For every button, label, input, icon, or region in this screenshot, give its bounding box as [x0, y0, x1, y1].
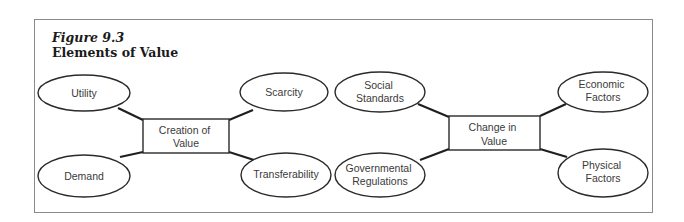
- connector-transferability: [229, 152, 254, 160]
- transferability-label: Transferability: [253, 168, 319, 180]
- governmental-regulations-label: Governmental Regulations: [346, 162, 415, 187]
- connector-economic-factors: [540, 104, 566, 116]
- connector-social-standards: [418, 104, 449, 117]
- connector-physical-factors: [540, 149, 567, 157]
- economic-factors-label: Economic Factors: [578, 78, 627, 103]
- connector-demand: [120, 152, 143, 157]
- demand-label: Demand: [64, 170, 104, 182]
- connector-governmental-regulations: [420, 149, 449, 160]
- physical-factors-label: Physical Factors: [582, 159, 624, 184]
- connector-scarcity: [229, 110, 253, 120]
- elements-of-value-diagram: Creation of Value Change in Value Utilit…: [0, 0, 684, 222]
- connector-utility: [118, 108, 143, 120]
- scarcity-label: Scarcity: [265, 86, 303, 98]
- utility-label: Utility: [71, 87, 97, 99]
